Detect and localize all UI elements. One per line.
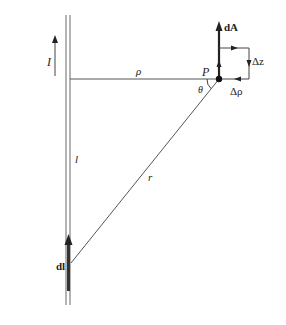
current-loop [217, 46, 252, 82]
r-label: r [148, 172, 152, 183]
dA-label: dA [224, 22, 238, 33]
r-line [71, 79, 219, 263]
point-P-dot [216, 76, 222, 82]
current-label: I [47, 56, 51, 68]
theta-label: θ [198, 85, 203, 95]
rho-label: ρ [136, 66, 141, 77]
diagram-canvas [0, 0, 286, 325]
l-label: l [75, 154, 78, 165]
dl-label: dl [56, 261, 65, 272]
delta-z-label: Δz [252, 56, 264, 67]
delta-rho-label: Δρ [230, 86, 243, 97]
current-arrow-icon [52, 35, 58, 76]
theta-arc [207, 79, 211, 89]
dA-arrow-icon [216, 21, 223, 79]
point-P-label: P [202, 66, 209, 78]
